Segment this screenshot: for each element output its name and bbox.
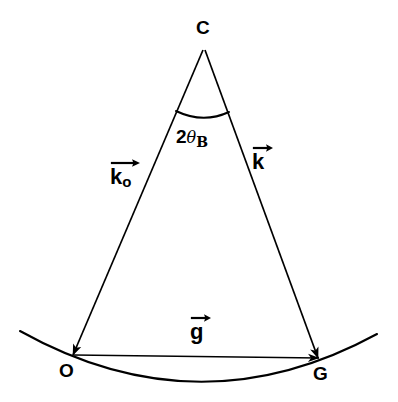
theta-glyph: θ bbox=[187, 128, 197, 147]
vector-label-g: g bbox=[190, 313, 203, 344]
g-symbol: g bbox=[190, 319, 203, 344]
g-overbar-arrow-icon bbox=[190, 313, 211, 322]
k0-symbol: k bbox=[110, 164, 122, 189]
k-vector-line bbox=[205, 50, 318, 358]
k0-symbol-text: ko bbox=[110, 166, 131, 189]
diffraction-vector-diagram: C O G 2θB ko k g bbox=[0, 0, 398, 402]
k0-vector-line bbox=[73, 50, 203, 355]
k-symbol: k bbox=[252, 149, 264, 174]
angle-arc bbox=[176, 111, 229, 118]
point-label-o: O bbox=[59, 361, 74, 380]
k0-overbar-arrow-icon bbox=[110, 158, 140, 167]
k0-subscript: o bbox=[122, 173, 131, 190]
g-vector-line bbox=[74, 355, 319, 358]
g-symbol-text: g bbox=[190, 321, 203, 344]
k-symbol-text: k bbox=[252, 151, 264, 174]
angle-prefix: 2 bbox=[176, 126, 187, 147]
point-label-c: C bbox=[196, 18, 210, 37]
angle-subscript: B bbox=[196, 134, 208, 150]
vector-label-k0: ko bbox=[110, 158, 131, 189]
point-label-g: G bbox=[313, 364, 328, 383]
angle-label-two-theta-b: 2θB bbox=[176, 126, 208, 150]
vector-label-k: k bbox=[252, 143, 264, 174]
k-overbar-arrow-icon bbox=[252, 143, 273, 152]
